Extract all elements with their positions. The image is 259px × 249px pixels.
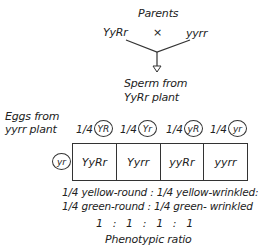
sperm-gamete-3: 1/4yR — [166, 120, 203, 137]
offspring-cell: yyRr — [161, 144, 205, 180]
sperm-gamete-4: 1/4yr — [210, 120, 247, 137]
phenotype-line1: 1/4 yellow-round : 1/4 yellow-wrinkled: — [62, 186, 258, 198]
ratio-label: Phenotypic ratio — [105, 234, 192, 246]
sperm-label-line2: YyRr plant — [124, 92, 179, 104]
cross-symbol: × — [153, 27, 162, 39]
eggs-label-line2: yyrr plant — [5, 124, 57, 136]
parents-title: Parents — [138, 8, 178, 20]
ratio-numbers: 1 : 1 : 1 : 1 — [96, 218, 193, 230]
gamete-circle: YR — [94, 120, 113, 137]
offspring-cell: yyrr — [204, 144, 247, 180]
phenotype-line2: 1/4 green-round : 1/4 green- wrinkled — [62, 200, 253, 212]
gamete-circle: Yr — [138, 120, 157, 137]
eggs-label-line1: Eggs from — [5, 111, 59, 123]
egg-gamete: yr — [51, 153, 71, 170]
parent-left: YyRr — [103, 27, 128, 39]
offspring-cell: Yyrr — [117, 144, 161, 180]
gamete-circle: yr — [228, 120, 247, 137]
offspring-cell: YyRr — [73, 144, 117, 180]
punnett-square: YyRr Yyrr yyRr yyrr — [72, 143, 248, 181]
gamete-circle: yR — [184, 120, 203, 137]
sperm-gamete-1: 1/4YR — [76, 120, 113, 137]
parent-right: yyrr — [186, 28, 207, 40]
sperm-label-line1: Sperm from — [124, 78, 187, 90]
gamete-circle: yr — [52, 153, 71, 170]
sperm-gamete-2: 1/4Yr — [120, 120, 157, 137]
